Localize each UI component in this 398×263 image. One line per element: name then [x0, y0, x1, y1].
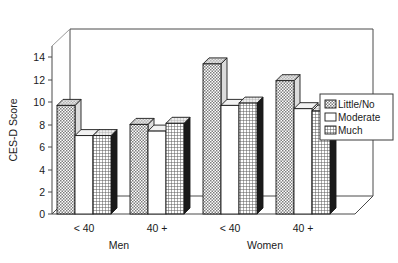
legend-item-moderate[interactable]: Moderate: [325, 112, 381, 123]
legend-swatch-little-no: [325, 100, 336, 108]
y-axis-title: CES-D Score: [7, 98, 19, 161]
x-category-label-1: 40 +: [147, 222, 168, 234]
x-group-label-men: Men: [109, 239, 130, 251]
x-category-label-3: 40 +: [293, 222, 314, 234]
y-tick-label-4: 4: [39, 164, 45, 176]
y-tick-label-8: 8: [39, 119, 45, 131]
bar-men-lt40-much[interactable]: [93, 130, 117, 214]
chart-container: 0 2 4 6 8 10 12 14 CES-D Score: [0, 0, 398, 263]
legend-swatch-much: [325, 126, 336, 134]
y-tick-label-2: 2: [39, 186, 45, 198]
legend-swatch-moderate: [325, 113, 336, 121]
legend-item-little-no[interactable]: Little/No: [325, 99, 375, 110]
y-tick-label-6: 6: [39, 141, 45, 153]
legend: Little/No Moderate Much: [320, 94, 393, 140]
x-category-label-0: < 40: [74, 222, 95, 234]
x-category-label-2: < 40: [220, 222, 241, 234]
y-tick-label-12: 12: [33, 74, 45, 86]
legend-label-little-no: Little/No: [338, 99, 375, 110]
y-tick-label-0: 0: [39, 208, 45, 220]
bar-women-lt40-much[interactable]: [239, 97, 263, 214]
x-group-label-women: Women: [247, 239, 283, 251]
bar-chart: 0 2 4 6 8 10 12 14 CES-D Score: [0, 0, 398, 263]
bar-men-40plus-much[interactable]: [166, 117, 190, 214]
legend-label-much: Much: [338, 125, 362, 136]
y-tick-label-14: 14: [33, 51, 45, 63]
bar-group-men-40plus: [130, 117, 190, 214]
legend-item-much[interactable]: Much: [325, 125, 362, 136]
y-tick-label-10: 10: [33, 96, 45, 108]
legend-label-moderate: Moderate: [338, 112, 381, 123]
